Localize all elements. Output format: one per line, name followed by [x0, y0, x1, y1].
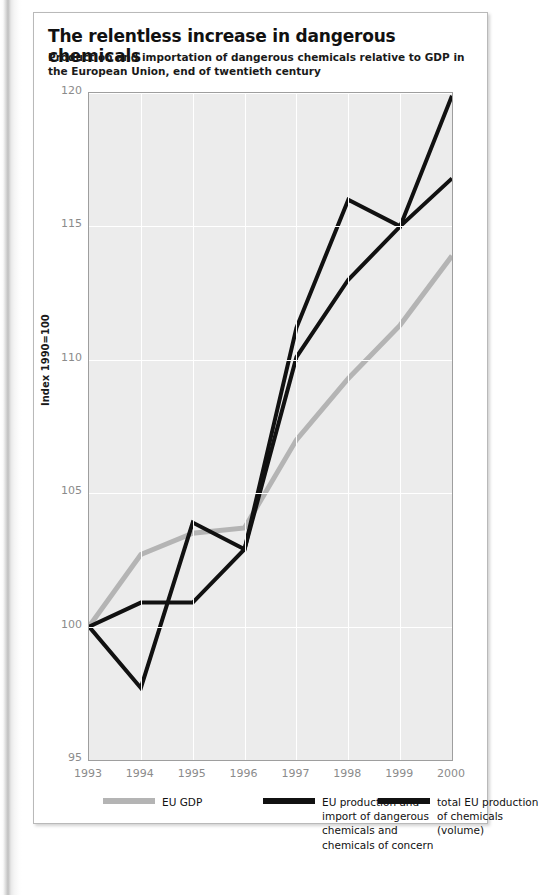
y-tick-label: 95 [48, 751, 82, 764]
y-axis-ticks: 95100105110115120 [48, 92, 82, 761]
y-tick-label: 105 [48, 484, 82, 497]
legend-swatch [263, 798, 315, 804]
y-tick-label: 100 [48, 618, 82, 631]
gridline-vertical [452, 93, 453, 760]
x-tick-label: 1999 [385, 767, 413, 780]
legend-label: total EU production of chemicals (volume… [437, 795, 543, 838]
chart-figure: The relentless increase in dangerous che… [33, 12, 488, 824]
x-tick-label: 1993 [74, 767, 102, 780]
x-tick-label: 1996 [230, 767, 258, 780]
gridline-vertical [193, 93, 194, 760]
plot-area [88, 92, 453, 761]
gridline-vertical [296, 93, 297, 760]
legend-swatch [103, 798, 155, 804]
x-tick-label: 1997 [281, 767, 309, 780]
y-tick-label: 110 [48, 351, 82, 364]
x-tick-label: 1994 [126, 767, 154, 780]
plot-wrapper: Index 1990=100 95100105110115120 1993199… [48, 86, 476, 786]
series-line-2 [89, 96, 452, 688]
gridline-vertical [245, 93, 246, 760]
legend-item: total EU production of chemicals (volume… [378, 795, 543, 838]
chart-legend: EU GDPEU production and import of danger… [48, 795, 468, 853]
gridline-horizontal [89, 226, 452, 227]
y-tick-label: 120 [48, 84, 82, 97]
x-axis-ticks: 19931994199519961997199819992000 [88, 767, 453, 787]
legend-item: EU GDP [103, 795, 283, 809]
gridline-horizontal [89, 93, 452, 94]
gridline-vertical [141, 93, 142, 760]
gridline-horizontal [89, 627, 452, 628]
gridline-vertical [400, 93, 401, 760]
legend-swatch [378, 798, 430, 804]
series-line-1 [89, 178, 452, 626]
gridline-horizontal [89, 360, 452, 361]
y-tick-label: 115 [48, 217, 82, 230]
x-tick-label: 1995 [178, 767, 206, 780]
page-edge-strip [0, 0, 22, 895]
gridline-vertical [348, 93, 349, 760]
x-tick-label: 2000 [437, 767, 465, 780]
gridline-horizontal [89, 493, 452, 494]
x-tick-label: 1998 [333, 767, 361, 780]
series-lines [89, 93, 452, 760]
chart-subtitle: Production and importation of dangerous … [48, 51, 468, 79]
